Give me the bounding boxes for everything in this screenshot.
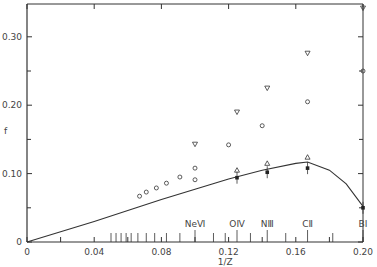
ion-label: CⅡ [302,219,313,229]
x-tick-label: 0.04 [84,247,104,257]
triangle-down-marker [265,86,270,91]
circle-marker [178,175,182,179]
ion-label: OⅣ [229,219,245,229]
circle-marker [144,190,148,194]
triangle-down-marker [193,142,198,147]
filled-marker [361,206,365,210]
chart: 00.100.200.30f00.040.080.120.160.201/ZNe… [0,0,377,267]
x-tick-label: 0 [24,247,30,257]
circle-marker [306,100,310,104]
filled-marker [235,176,239,180]
triangle-up-marker [235,168,240,173]
circle-marker [227,143,231,147]
ion-label: NⅢ [261,219,274,229]
x-tick-label: 0.20 [353,247,373,257]
circle-marker [193,166,197,170]
y-tick-label: 0.10 [2,169,22,179]
x-tick-label: 0.16 [286,247,306,257]
x-tick-label: 0.12 [219,247,239,257]
triangle-up-marker [305,155,310,160]
triangle-up-marker [265,161,270,166]
x-axis-label: 1/Z [218,257,233,267]
circle-marker [154,186,158,190]
circle-marker [138,194,142,198]
circle-marker [164,181,168,185]
x-tick-label: 0.08 [151,247,171,257]
circle-marker [260,124,264,128]
ion-label: NeⅥ [185,219,206,229]
triangle-down-marker [235,110,240,115]
y-tick-label: 0 [16,237,22,247]
circle-marker [193,178,197,182]
y-tick-label: 0.20 [2,100,22,110]
triangle-down-marker [305,51,310,56]
filled-marker [265,170,269,174]
y-tick-label: 0.30 [2,32,22,42]
ion-label: BⅠ [359,219,368,229]
y-axis-label: f [4,126,8,136]
theory-curve [27,162,363,242]
filled-marker [306,166,310,170]
